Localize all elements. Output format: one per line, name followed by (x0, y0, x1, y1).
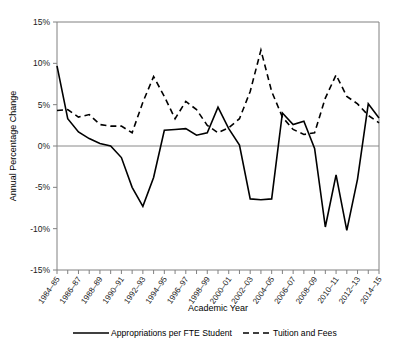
legend-label-2: Tuition and Fees (273, 328, 337, 338)
legend-item: Appropriations per FTE Student (73, 328, 232, 338)
y-tick-label: 0% (38, 141, 51, 151)
legend-item: Tuition and Fees (243, 328, 337, 338)
x-tick-label: 2014–15 (358, 275, 384, 306)
y-axis-ticks: 15%10%5%0%-5%-10%-15% (30, 17, 57, 275)
annual-percentage-change-line-chart: 15%10%5%0%-5%-10%-15% 1984–851986–871988… (0, 0, 405, 349)
data-series-group (57, 50, 379, 230)
y-tick-label: -10% (30, 224, 50, 234)
y-axis-title: Annual Percentage Change (8, 91, 18, 202)
x-axis-title: Academic Year (188, 303, 248, 313)
plot-frame (57, 22, 379, 270)
legend-label-1: Appropriations per FTE Student (111, 328, 232, 338)
series-line-2 (57, 50, 379, 134)
y-tick-label: -5% (35, 182, 51, 192)
series-line-1 (57, 66, 379, 231)
chart-figure: 15%10%5%0%-5%-10%-15% 1984–851986–871988… (0, 0, 405, 349)
chart-legend: Appropriations per FTE StudentTuition an… (73, 328, 337, 338)
x-axis-ticks: 1984–851986–871988–891990–911992–931994–… (36, 270, 384, 306)
y-tick-label: 5% (38, 100, 51, 110)
y-tick-label: -15% (30, 265, 50, 275)
y-tick-label: 15% (33, 17, 50, 27)
y-tick-label: 10% (33, 58, 50, 68)
